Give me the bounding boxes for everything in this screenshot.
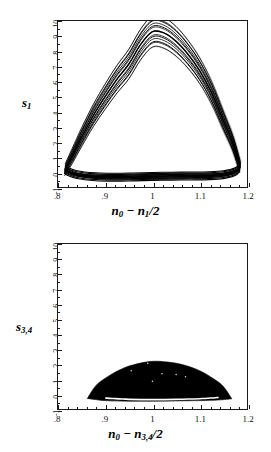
x-tick-label: .9 (101, 190, 108, 202)
y-tick-mark-minor (58, 29, 60, 30)
x-tick-mark-minor (182, 407, 183, 409)
x-tick-mark-minor (68, 185, 69, 187)
phase-plot-panel-top: s1 -1012345678910 .8.911.11.2 n0 − n1/2 (0, 0, 271, 226)
x-tick-mark-minor (230, 407, 231, 409)
x-axis-title-bottom: n0 − n3,4/2 (0, 426, 271, 442)
attractor-speckle (185, 376, 187, 378)
y-tick-mark (58, 113, 62, 114)
x-title-second-bottom: n (134, 426, 141, 441)
x-tick-label: .8 (54, 413, 61, 425)
y-tick-mark (58, 158, 62, 159)
y-tick-mark (58, 381, 62, 382)
y-tick-mark-minor (58, 282, 60, 283)
x-tick-mark (154, 183, 155, 187)
x-tick-mark (249, 405, 250, 409)
x-title-tail-top: /2 (149, 203, 159, 218)
y-tick-mark (58, 244, 62, 245)
y-tick-mark (58, 365, 62, 366)
x-tick-mark-minor (192, 185, 193, 187)
attractor-speckle (147, 362, 149, 364)
x-tick-mark (201, 183, 202, 187)
y-tick-mark-minor (58, 312, 60, 313)
y-tick-mark-minor (58, 297, 60, 298)
y-tick-mark-minor (58, 74, 60, 75)
plot-area-top (58, 21, 247, 187)
x-title-op-top: − (123, 203, 137, 218)
y-tick-mark (58, 143, 62, 144)
phase-plot-panel-bottom: s3,4 -1012345678910 .8.911.11.2 n0 − n3,… (0, 226, 271, 452)
plot-frame-top (57, 20, 248, 188)
y-axis-title-sub-top: 1 (27, 101, 31, 111)
x-title-second-top: n (138, 203, 145, 218)
y-tick-mark (58, 128, 62, 129)
x-tick-mark-minor (163, 185, 164, 187)
y-tick-mark-minor (58, 59, 60, 60)
attractor-filled-body (87, 361, 232, 401)
x-tick-mark-minor (192, 407, 193, 409)
x-tick-mark-minor (144, 185, 145, 187)
y-tick-mark (58, 411, 62, 412)
y-tick-mark-minor (58, 166, 60, 167)
x-tick-mark-minor (115, 407, 116, 409)
x-title-op-bottom: − (120, 426, 134, 441)
attractor-curves-top (58, 21, 247, 187)
x-axis-tick-labels-bottom: .8.911.11.2 (57, 413, 248, 427)
y-tick-mark-minor (58, 267, 60, 268)
y-tick-mark-minor (58, 105, 60, 106)
x-axis-tick-labels-top: .8.911.11.2 (57, 190, 248, 204)
x-tick-mark-minor (163, 407, 164, 409)
y-tick-mark-minor (58, 120, 60, 121)
x-tick-mark-minor (220, 407, 221, 409)
x-title-tail-bottom: /2 (153, 426, 163, 441)
x-tick-mark-minor (115, 185, 116, 187)
y-axis-tick-labels-bottom: -1012345678910 (40, 243, 57, 410)
x-tick-mark-minor (134, 407, 135, 409)
plot-frame-bottom (57, 243, 248, 410)
y-tick-mark-minor (58, 252, 60, 253)
plot-area-bottom (58, 244, 247, 409)
y-tick-mark-minor (58, 328, 60, 329)
x-tick-mark-minor (96, 407, 97, 409)
y-tick-mark (58, 396, 62, 397)
x-tick-mark-minor (134, 185, 135, 187)
x-tick-label: .8 (54, 190, 61, 202)
x-title-second-sub-bottom: 3,4 (142, 432, 153, 442)
x-tick-mark-minor (77, 185, 78, 187)
attractor-speckle (161, 373, 163, 375)
y-tick-mark (58, 36, 62, 37)
y-tick-mark-minor (58, 44, 60, 45)
x-axis-title-top: n0 − n1/2 (0, 203, 271, 219)
attractor-lower-band (65, 163, 240, 173)
y-tick-mark (58, 52, 62, 53)
y-tick-mark-minor (58, 388, 60, 389)
x-tick-mark-minor (211, 185, 212, 187)
x-tick-mark-minor (220, 185, 221, 187)
attractor-speckle (175, 374, 177, 376)
x-tick-mark (58, 405, 59, 409)
attractor-blob-bottom (58, 244, 247, 409)
x-tick-mark-minor (239, 185, 240, 187)
x-tick-label: 1.1 (195, 190, 206, 202)
x-tick-mark-minor (77, 407, 78, 409)
x-title-lead-top: n (112, 203, 119, 218)
x-tick-label: 1.1 (195, 413, 206, 425)
x-tick-mark-minor (211, 407, 212, 409)
attractor-trajectory (65, 36, 240, 178)
x-tick-mark (154, 405, 155, 409)
x-tick-label: 1 (150, 413, 155, 425)
x-title-lead-bottom: n (108, 426, 115, 441)
y-tick-mark (58, 335, 62, 336)
x-tick-mark-minor (173, 407, 174, 409)
y-tick-mark (58, 97, 62, 98)
y-tick-mark (58, 67, 62, 68)
x-tick-mark-minor (182, 185, 183, 187)
x-tick-mark-minor (230, 185, 231, 187)
x-tick-mark-minor (239, 407, 240, 409)
y-tick-mark (58, 290, 62, 291)
y-axis-title-bottom: s3,4 (16, 319, 32, 335)
x-tick-mark-minor (125, 407, 126, 409)
x-tick-mark (58, 183, 59, 187)
y-tick-mark (58, 274, 62, 275)
x-tick-label: 1 (150, 190, 155, 202)
y-tick-mark-minor (58, 343, 60, 344)
